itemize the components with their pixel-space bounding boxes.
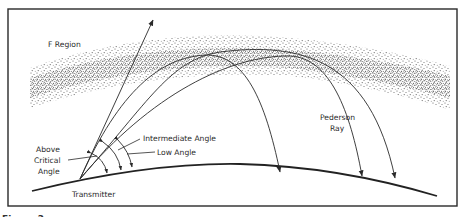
- intermediate-angle-label: Intermediate Angle: [143, 134, 216, 143]
- ionosphere-propagation-diagram: F Region Pederson Ray Above Critical Ang…: [0, 0, 464, 217]
- low-angle-label: Low Angle: [157, 148, 196, 157]
- transmitter-label: Transmitter: [71, 190, 116, 199]
- above-critical-label-line3: Angle: [38, 167, 60, 176]
- above-critical-label-line1: Above: [36, 145, 60, 154]
- pederson-label-line1: Pederson: [320, 113, 355, 122]
- pederson-label-line2: Ray: [330, 124, 345, 133]
- f-region-label: F Region: [48, 40, 81, 49]
- figure-caption: Figure 2-: [2, 214, 48, 217]
- above-critical-label-line2: Critical: [34, 156, 61, 165]
